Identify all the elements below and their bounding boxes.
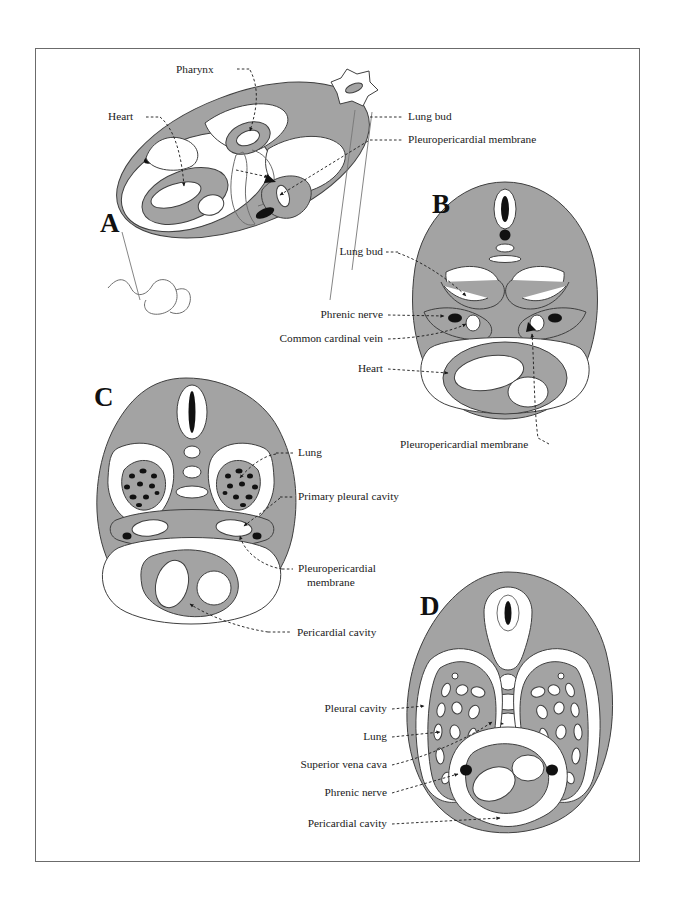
- panel-a-embryo-outline-tail: [170, 289, 190, 314]
- panel-b-aorta: [496, 244, 514, 252]
- panel-b-notochord: [500, 230, 511, 241]
- panel-b-phrenic-nerve-left: [448, 314, 462, 323]
- panel-b-letter: B: [432, 189, 450, 219]
- label-phrenic-nerve-d: Phrenic nerve: [325, 786, 387, 798]
- label-superior-vena-cava-d: Superior vena cava: [300, 758, 387, 770]
- label-heart-a: Heart: [108, 110, 134, 122]
- panel-c-esophagus: [176, 486, 208, 498]
- panel-b-common-cardinal-vein-left: [466, 315, 480, 331]
- figure-page: A Pharynx Heart Lung bud Pleuropericardi…: [0, 0, 674, 911]
- label-primary-pleural-cavity-c: Primary pleural cavity: [298, 490, 399, 502]
- panel-d: D Pleural cavity Lung Superior vena cava…: [300, 572, 612, 833]
- panel-c-aorta: [183, 466, 201, 478]
- panel-a-level-line-left: [122, 232, 140, 300]
- panel-b-phrenic-nerve-right: [548, 314, 562, 323]
- label-lung-bud-a: Lung bud: [408, 110, 452, 122]
- panel-c: C Lung Primary pleural cavity Pleuroperi…: [94, 378, 399, 638]
- panel-d-heart-chamber-right: [512, 755, 544, 781]
- label-pleuropericardial-membrane-c-line2: membrane: [307, 576, 355, 588]
- label-pleuropericardial-membrane-a: Pleuropericardial membrane: [408, 133, 536, 145]
- label-lung-c: Lung: [298, 446, 322, 458]
- panel-d-phrenic-nerve-left: [460, 765, 472, 776]
- label-lung-bud-b: Lung bud: [339, 245, 383, 257]
- panel-d-neural-canal: [505, 601, 512, 625]
- label-heart-b: Heart: [358, 362, 384, 374]
- label-common-cardinal-vein-b: Common cardinal vein: [279, 332, 383, 344]
- panel-b-esophagus: [489, 256, 521, 263]
- panel-c-notochord: [184, 446, 200, 458]
- panel-b-heart-chamber-right: [508, 377, 548, 407]
- panel-c-neural-canal: [189, 391, 196, 433]
- label-pleural-cavity-d: Pleural cavity: [325, 702, 388, 714]
- panel-a-embryo-outline: [108, 280, 177, 315]
- label-pleuropericardial-membrane-b: Pleuropericardial membrane: [400, 438, 528, 450]
- panel-b: B Lung bud Phrenic nerve Common cardinal…: [279, 182, 597, 450]
- label-pericardial-cavity-c: Pericardial cavity: [297, 626, 377, 638]
- panel-d-letter: D: [420, 591, 440, 621]
- panel-c-phrenic-nerve-right: [253, 533, 262, 540]
- panel-c-letter: C: [94, 382, 114, 412]
- panel-d-phrenic-nerve-right: [546, 765, 558, 776]
- label-pleuropericardial-membrane-c-line1: Pleuropericardial: [298, 562, 376, 574]
- label-pericardial-cavity-d: Pericardial cavity: [308, 817, 388, 829]
- anatomical-figure: A Pharynx Heart Lung bud Pleuropericardi…: [0, 0, 674, 911]
- label-phrenic-nerve-b: Phrenic nerve: [321, 308, 383, 320]
- panel-a-letter: A: [100, 208, 120, 238]
- panel-c-phrenic-nerve-left: [123, 533, 132, 540]
- panel-b-neural-canal: [501, 196, 509, 222]
- label-pharynx-a: Pharynx: [176, 63, 214, 75]
- panel-c-heart-chamber-right: [197, 571, 231, 605]
- label-lung-d: Lung: [363, 730, 387, 742]
